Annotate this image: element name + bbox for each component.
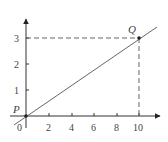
point-p [24,114,28,118]
point-q-label: Q [128,23,136,35]
y-tick-label: 3 [14,33,19,44]
line-pq [14,27,157,125]
x-tick-label: 4 [69,122,74,133]
line-chart: P Q 0 2 4 6 8 10 1 2 3 [0,0,168,142]
x-tick-label: 6 [91,122,96,133]
x-tick-label: 10 [133,122,143,133]
x-tick-label: 2 [46,122,51,133]
point-q [137,36,141,40]
x-tick-label: 0 [17,122,22,133]
point-p-label: P [12,103,20,115]
x-tick-label: 8 [114,122,119,133]
y-tick-label: 2 [14,59,19,70]
y-tick-label: 1 [14,85,19,96]
